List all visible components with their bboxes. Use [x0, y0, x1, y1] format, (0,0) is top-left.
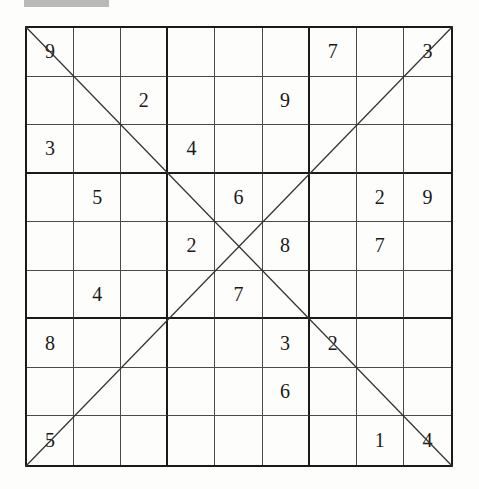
sudoku-cell-r3-c4[interactable]: 4	[168, 125, 215, 174]
sudoku-cell-r8-c5[interactable]	[215, 368, 262, 417]
sudoku-cell-r2-c9[interactable]	[404, 77, 451, 126]
sudoku-cell-r7-c1[interactable]: 8	[27, 319, 74, 368]
sudoku-cell-r9-c7[interactable]	[310, 416, 357, 465]
sudoku-cell-r8-c7[interactable]	[310, 368, 357, 417]
sudoku-page: 97329345629287478326514	[0, 0, 479, 489]
sudoku-cell-r3-c7[interactable]	[310, 125, 357, 174]
sudoku-cell-r7-c5[interactable]	[215, 319, 262, 368]
sudoku-cell-r9-c2[interactable]	[74, 416, 121, 465]
sudoku-cell-r5-c2[interactable]	[74, 222, 121, 271]
sudoku-cell-r9-c1[interactable]: 5	[27, 416, 74, 465]
sudoku-cell-r7-c8[interactable]	[357, 319, 404, 368]
sudoku-cell-r6-c4[interactable]	[168, 271, 215, 320]
sudoku-cell-r6-c2[interactable]: 4	[74, 271, 121, 320]
sudoku-cell-r9-c5[interactable]	[215, 416, 262, 465]
sudoku-cell-r5-c9[interactable]	[404, 222, 451, 271]
sudoku-cell-r9-c8[interactable]: 1	[357, 416, 404, 465]
sudoku-cell-r8-c3[interactable]	[121, 368, 168, 417]
sudoku-grid: 97329345629287478326514	[25, 26, 453, 467]
sudoku-cell-r4-c2[interactable]: 5	[74, 174, 121, 223]
sudoku-cell-r6-c7[interactable]	[310, 271, 357, 320]
sudoku-cell-r1-c2[interactable]	[74, 28, 121, 77]
sudoku-cell-r8-c4[interactable]	[168, 368, 215, 417]
sudoku-cell-r4-c6[interactable]	[263, 174, 310, 223]
sudoku-cell-r6-c3[interactable]	[121, 271, 168, 320]
sudoku-cell-r2-c6[interactable]: 9	[263, 77, 310, 126]
sudoku-cell-r9-c3[interactable]	[121, 416, 168, 465]
sudoku-cell-r4-c8[interactable]: 2	[357, 174, 404, 223]
sudoku-cell-r4-c3[interactable]	[121, 174, 168, 223]
sudoku-cell-r1-c9[interactable]: 3	[404, 28, 451, 77]
sudoku-cell-r6-c8[interactable]	[357, 271, 404, 320]
sudoku-cell-r8-c8[interactable]	[357, 368, 404, 417]
sudoku-cell-r3-c8[interactable]	[357, 125, 404, 174]
sudoku-cell-r9-c9[interactable]: 4	[404, 416, 451, 465]
sudoku-cell-r9-c6[interactable]	[263, 416, 310, 465]
sudoku-cell-r1-c7[interactable]: 7	[310, 28, 357, 77]
sudoku-cell-r4-c1[interactable]	[27, 174, 74, 223]
sudoku-cell-r2-c5[interactable]	[215, 77, 262, 126]
sudoku-cell-r5-c6[interactable]: 8	[263, 222, 310, 271]
sudoku-cell-r2-c7[interactable]	[310, 77, 357, 126]
sudoku-cell-r1-c8[interactable]	[357, 28, 404, 77]
sudoku-cell-r6-c1[interactable]	[27, 271, 74, 320]
sudoku-cell-r1-c5[interactable]	[215, 28, 262, 77]
sudoku-cell-r5-c4[interactable]: 2	[168, 222, 215, 271]
sudoku-cell-r7-c3[interactable]	[121, 319, 168, 368]
sudoku-cell-r3-c9[interactable]	[404, 125, 451, 174]
sudoku-cell-r2-c8[interactable]	[357, 77, 404, 126]
header-bar	[24, 0, 109, 7]
sudoku-cell-r2-c3[interactable]: 2	[121, 77, 168, 126]
sudoku-cell-r3-c6[interactable]	[263, 125, 310, 174]
sudoku-cell-r4-c9[interactable]: 9	[404, 174, 451, 223]
sudoku-cell-r3-c2[interactable]	[74, 125, 121, 174]
sudoku-cell-r8-c6[interactable]: 6	[263, 368, 310, 417]
sudoku-cell-r7-c4[interactable]	[168, 319, 215, 368]
sudoku-cell-r7-c7[interactable]: 2	[310, 319, 357, 368]
sudoku-cell-r7-c2[interactable]	[74, 319, 121, 368]
sudoku-cell-r5-c7[interactable]	[310, 222, 357, 271]
sudoku-cell-r8-c9[interactable]	[404, 368, 451, 417]
sudoku-cell-r2-c1[interactable]	[27, 77, 74, 126]
sudoku-cell-r7-c6[interactable]: 3	[263, 319, 310, 368]
sudoku-cell-r3-c5[interactable]	[215, 125, 262, 174]
sudoku-cell-r5-c3[interactable]	[121, 222, 168, 271]
sudoku-cell-r6-c6[interactable]	[263, 271, 310, 320]
sudoku-cell-r4-c5[interactable]: 6	[215, 174, 262, 223]
sudoku-cell-r7-c9[interactable]	[404, 319, 451, 368]
sudoku-cell-r5-c5[interactable]	[215, 222, 262, 271]
sudoku-cell-r8-c2[interactable]	[74, 368, 121, 417]
sudoku-cell-r5-c1[interactable]	[27, 222, 74, 271]
sudoku-cell-r1-c1[interactable]: 9	[27, 28, 74, 77]
sudoku-cell-r2-c4[interactable]	[168, 77, 215, 126]
sudoku-cell-r8-c1[interactable]	[27, 368, 74, 417]
sudoku-cell-r4-c4[interactable]	[168, 174, 215, 223]
sudoku-cell-r6-c5[interactable]: 7	[215, 271, 262, 320]
sudoku-cell-r9-c4[interactable]	[168, 416, 215, 465]
sudoku-cell-r1-c4[interactable]	[168, 28, 215, 77]
sudoku-cell-r6-c9[interactable]	[404, 271, 451, 320]
sudoku-cell-r5-c8[interactable]: 7	[357, 222, 404, 271]
sudoku-cell-r2-c2[interactable]	[74, 77, 121, 126]
sudoku-cell-r3-c3[interactable]	[121, 125, 168, 174]
sudoku-cell-r4-c7[interactable]	[310, 174, 357, 223]
sudoku-cell-r3-c1[interactable]: 3	[27, 125, 74, 174]
sudoku-cell-r1-c6[interactable]	[263, 28, 310, 77]
sudoku-cell-r1-c3[interactable]	[121, 28, 168, 77]
